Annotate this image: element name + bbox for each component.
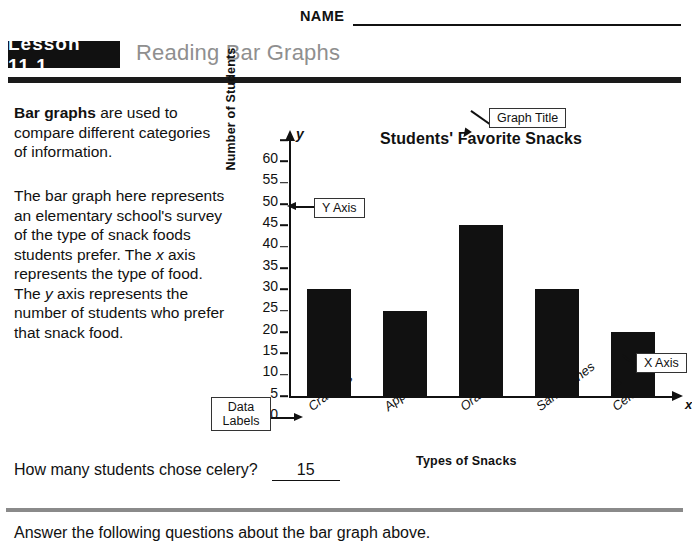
y-tick-label-45: 45 bbox=[248, 215, 278, 229]
y-tick-mark-35 bbox=[280, 246, 288, 248]
intro-var-y: y bbox=[45, 285, 53, 302]
y-tick-label-25: 25 bbox=[248, 300, 278, 314]
y-tick-mark-50 bbox=[280, 182, 288, 184]
lesson-badge: Lesson 11.1 bbox=[8, 41, 120, 68]
y-tick-label-15: 15 bbox=[248, 343, 278, 357]
callout-x-axis: X Axis bbox=[636, 353, 687, 373]
x-axis-letter: x bbox=[685, 397, 692, 412]
intro-var-x: x bbox=[156, 246, 164, 263]
y-tick-label-60: 60 bbox=[248, 151, 278, 165]
celery-question-text: How many students chose celery? bbox=[14, 461, 258, 479]
y-axis-title: Number of Students bbox=[224, 34, 238, 184]
y-axis-ticks: 051015202530354045505560 bbox=[248, 149, 278, 397]
y-tick-label-35: 35 bbox=[248, 258, 278, 272]
y-tick-label-10: 10 bbox=[248, 364, 278, 378]
intro-lead: Bar graphs bbox=[14, 104, 96, 121]
y-tick-mark-30 bbox=[280, 267, 288, 269]
y-tick-mark-10 bbox=[280, 353, 288, 355]
celery-question-row: How many students chose celery? 15 bbox=[14, 461, 340, 481]
y-tick-label-50: 50 bbox=[248, 194, 278, 208]
plot-area bbox=[291, 140, 671, 396]
intro-paragraph-1: Bar graphs are used to compare different… bbox=[14, 103, 224, 162]
y-tick-label-40: 40 bbox=[248, 236, 278, 250]
y-tick-label-20: 20 bbox=[248, 322, 278, 336]
name-write-line[interactable] bbox=[353, 24, 681, 26]
x-axis-arrowhead bbox=[672, 391, 683, 401]
callout-y-axis: Y Axis bbox=[314, 198, 365, 218]
y-tick-label-55: 55 bbox=[248, 172, 278, 186]
y-tick-mark-0 bbox=[280, 395, 288, 397]
y-tick-mark-55 bbox=[280, 161, 288, 163]
y-tick-label-30: 30 bbox=[248, 279, 278, 293]
y-tick-mark-25 bbox=[280, 289, 288, 291]
data-labels-arrowhead bbox=[294, 413, 303, 421]
y-axis-connector bbox=[294, 206, 316, 208]
header-divider bbox=[8, 77, 681, 83]
y-tick-mark-60 bbox=[280, 139, 288, 141]
footer-instruction: Answer the following questions about the… bbox=[14, 524, 430, 542]
y-tick-mark-20 bbox=[280, 310, 288, 312]
footer-divider bbox=[6, 508, 683, 512]
name-field-row: NAME bbox=[300, 8, 681, 30]
x-axis-title: Types of Snacks bbox=[416, 454, 517, 468]
bar-chart: Students' Favorite Snacks Number of Stud… bbox=[226, 104, 686, 484]
intro-paragraph-2: The bar graph here represents an element… bbox=[14, 186, 226, 342]
y-axis-callout-arrowhead bbox=[287, 202, 296, 210]
name-label: NAME bbox=[300, 8, 344, 24]
callout-graph-title: Graph Title bbox=[489, 108, 566, 128]
y-tick-mark-15 bbox=[280, 331, 288, 333]
y-tick-mark-5 bbox=[280, 374, 288, 376]
page-title: Reading Bar Graphs bbox=[136, 40, 340, 66]
callout-data-labels: Data Labels bbox=[211, 397, 271, 431]
celery-answer-field[interactable]: 15 bbox=[272, 461, 340, 481]
y-tick-mark-40 bbox=[280, 225, 288, 227]
